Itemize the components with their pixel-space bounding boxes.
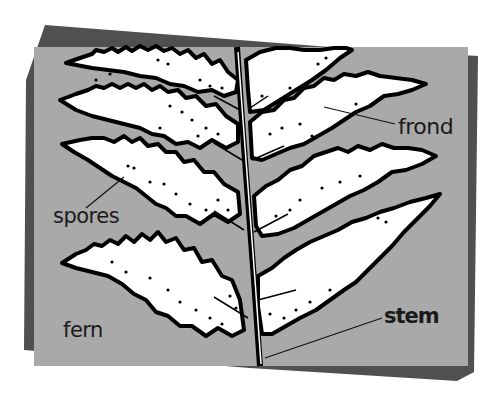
label-spores: spores	[53, 204, 119, 228]
label-stem: stem	[384, 304, 439, 328]
label-frond: frond	[398, 114, 453, 139]
label-fern: fern	[63, 318, 103, 342]
